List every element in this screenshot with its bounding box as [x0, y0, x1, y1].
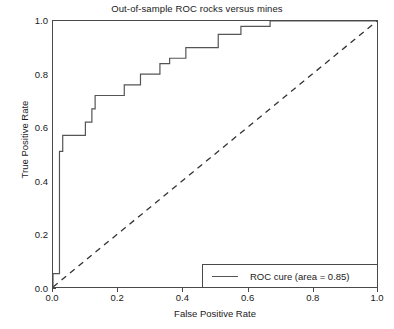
x-axis-tick-labels: 0.0 0.2 0.4 0.6 0.8 1.0	[52, 292, 378, 306]
y-axis-tick-labels: 0.0 0.2 0.4 0.6 0.8 1.0	[17, 20, 48, 288]
roc-chart-figure: Out-of-sample ROC rocks versus mines Tru…	[0, 0, 394, 329]
x-tick-label: 0.0	[32, 292, 72, 303]
chance-diagonal-line	[53, 21, 377, 287]
y-tick-label: 0.4	[22, 175, 48, 186]
x-tick-label: 0.6	[228, 292, 268, 303]
x-tick-label: 0.2	[97, 292, 137, 303]
y-tick-label: 0.8	[22, 68, 48, 79]
y-tick-label: 0.2	[22, 229, 48, 240]
x-tick-label: 0.8	[293, 292, 333, 303]
plot-svg	[53, 21, 377, 287]
plot-area	[52, 20, 378, 288]
chart-title: Out-of-sample ROC rocks versus mines	[0, 3, 394, 14]
x-tick-label: 1.0	[357, 292, 394, 303]
legend: ROC cure (area = 0.85)	[202, 264, 378, 288]
legend-entry-label: ROC cure (area = 0.85)	[250, 271, 350, 282]
y-tick-label: 1.0	[22, 15, 48, 26]
y-tick-label: 0.6	[22, 122, 48, 133]
legend-line-swatch	[212, 276, 238, 277]
x-axis-label: False Positive Rate	[52, 308, 378, 319]
x-tick-label: 0.4	[162, 292, 202, 303]
